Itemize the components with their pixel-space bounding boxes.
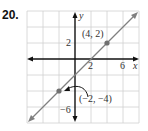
y-tick-2: 2 [66, 37, 71, 48]
y-axis [73, 12, 78, 122]
x-axis-label: x [132, 60, 138, 71]
coordinate-plane: y x 2 6 2 −6 (4, 2) (−2, −4) [0, 0, 148, 131]
point-neg2-neg4 [56, 88, 61, 93]
y-axis-label: y [78, 10, 84, 21]
x-tick-2: 2 [88, 60, 93, 71]
y-tick-neg6: −6 [60, 104, 71, 115]
arrow-down-icon [73, 116, 78, 122]
arrow-left-icon [27, 57, 33, 62]
arrow-up-icon [73, 12, 78, 18]
point-4-2 [104, 40, 109, 45]
point-label-neg2-neg4: (−2, −4) [79, 93, 112, 105]
point-label-4-2: (4, 2) [82, 28, 104, 40]
x-tick-6: 6 [120, 60, 125, 71]
